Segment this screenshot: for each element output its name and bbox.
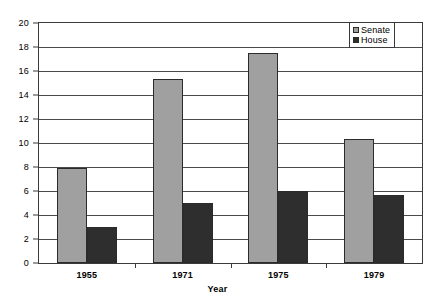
x-tick-mark (135, 264, 136, 268)
x-tick-mark (326, 264, 327, 268)
x-axis-title: Year (0, 284, 435, 294)
legend-swatch-house-icon (353, 37, 359, 43)
y-tick-label: 20 (19, 19, 29, 28)
bar-group (135, 23, 231, 263)
legend-swatch-senate-icon (353, 27, 359, 33)
bar-senate-1975[interactable] (248, 53, 278, 263)
y-tick-label: 8 (24, 163, 29, 172)
x-tick-label: 1971 (172, 270, 193, 280)
bar-senate-1955[interactable] (57, 168, 87, 263)
chart-legend: Senate House (349, 22, 395, 48)
y-tick-label: 16 (19, 67, 29, 76)
x-tick-label: 1979 (364, 270, 385, 280)
y-tick-label: 18 (19, 43, 29, 52)
y-tick-label: 2 (24, 235, 29, 244)
legend-item-senate[interactable]: Senate (353, 25, 390, 35)
y-tick-label: 14 (19, 91, 29, 100)
bar-house-1971[interactable] (183, 203, 213, 263)
x-tick-mark (231, 264, 232, 268)
legend-label-senate: Senate (361, 25, 390, 35)
y-tick-label: 0 (24, 259, 29, 268)
bar-house-1955[interactable] (87, 227, 117, 263)
legend-item-house[interactable]: House (353, 35, 390, 45)
bar-group (326, 23, 422, 263)
bar-house-1979[interactable] (374, 195, 404, 263)
y-tick-label: 4 (24, 211, 29, 220)
y-tick-label: 12 (19, 115, 29, 124)
bars-layer (39, 23, 422, 263)
bar-senate-1979[interactable] (344, 139, 374, 263)
x-tick-label: 1955 (76, 270, 97, 280)
bar-group (231, 23, 327, 263)
y-axis: 02468101214161820 (0, 0, 38, 300)
y-tick-label: 10 (19, 139, 29, 148)
bar-group (39, 23, 135, 263)
y-tick-label: 6 (24, 187, 29, 196)
x-tick-label: 1975 (268, 270, 289, 280)
bar-senate-1971[interactable] (153, 79, 183, 263)
bar-chart: 02468101214161820 1955197119751979 Year … (0, 0, 435, 300)
legend-label-house: House (361, 35, 388, 45)
bar-house-1975[interactable] (278, 191, 308, 263)
